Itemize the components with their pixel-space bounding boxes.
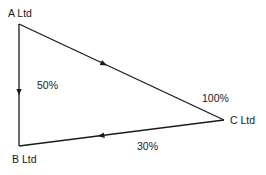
edge-label-c-b: 30% — [137, 141, 158, 152]
node-label-b: B Ltd — [12, 154, 37, 165]
edge-label-a-b: 50% — [37, 80, 58, 91]
node-label-a: A Ltd — [8, 8, 32, 19]
edge-label-a-c: 100% — [202, 93, 229, 104]
edge-a-to-c — [19, 24, 224, 120]
node-label-c: C Ltd — [230, 115, 255, 126]
edge-c-to-b — [19, 120, 224, 146]
